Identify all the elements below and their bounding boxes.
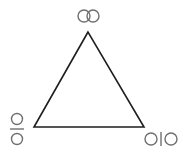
circle-bar-circle-icon bbox=[145, 132, 177, 146]
triangle-diagram bbox=[0, 0, 190, 156]
circle-over-circle-icon bbox=[10, 114, 24, 145]
overlapping-circles-icon bbox=[78, 10, 99, 22]
triangle bbox=[34, 32, 144, 127]
